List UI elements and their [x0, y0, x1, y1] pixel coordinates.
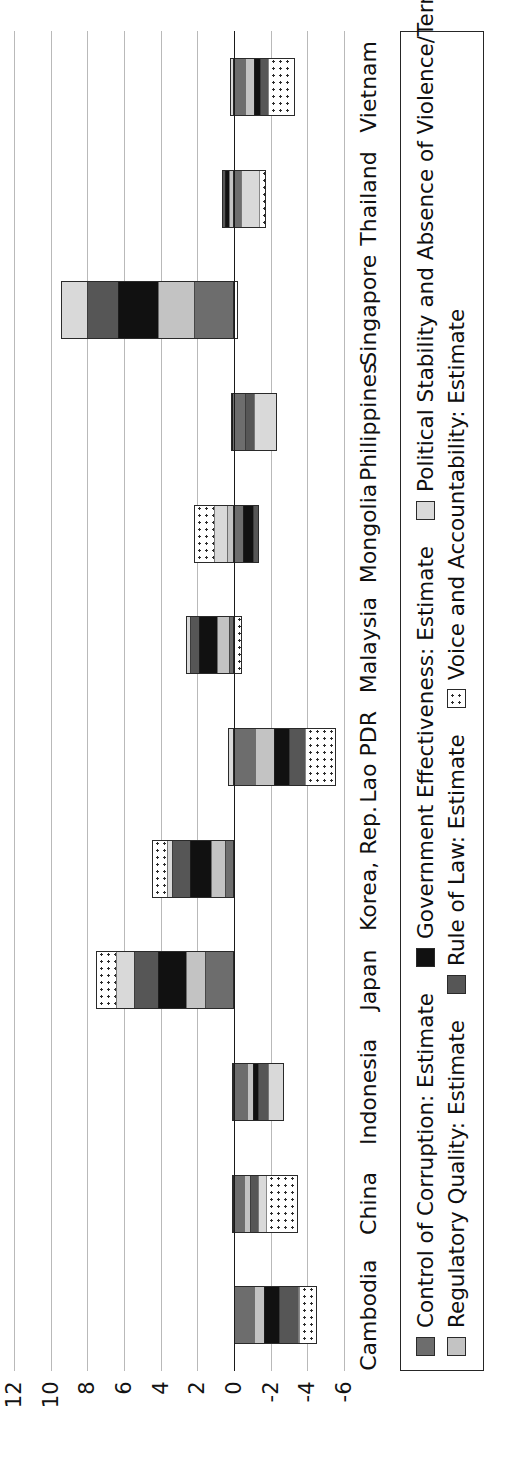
- stacked-bar[interactable]: [222, 170, 234, 228]
- bar-segment: [235, 729, 255, 785]
- bar-column: [14, 701, 344, 813]
- bar-segment: [214, 506, 227, 562]
- bar-segment: [134, 952, 158, 1008]
- bar-segment: [250, 1176, 258, 1232]
- chart-legend: Control of Corruption: EstimateGovernmen…: [400, 31, 484, 1371]
- bar-column: [14, 478, 344, 590]
- bar-segment: [229, 171, 233, 227]
- bar-segment: [289, 729, 305, 785]
- bar-segment: [97, 952, 116, 1008]
- bar-segment: [259, 171, 265, 227]
- stacked-bar[interactable]: [234, 393, 277, 451]
- bar-segment: [186, 952, 205, 1008]
- bar-segment: [116, 952, 134, 1008]
- value-axis-tick-label: 10: [39, 1381, 63, 1429]
- bar-segment: [235, 282, 237, 338]
- legend-swatch-icon: [447, 1337, 466, 1356]
- stacked-bar[interactable]: [61, 281, 234, 339]
- stacked-bar[interactable]: [234, 58, 295, 116]
- bar-segment: [153, 841, 166, 897]
- bar-segment: [260, 59, 268, 115]
- bar-segment: [266, 1176, 297, 1232]
- value-axis-tick-label: 12: [2, 1381, 26, 1429]
- bar-segment: [243, 506, 252, 562]
- category-label: Cambodia: [356, 1260, 381, 1371]
- legend-swatch-icon: [447, 689, 466, 708]
- category-label: Vietnam: [356, 41, 381, 133]
- legend-label: Government Effectiveness: Estimate: [410, 546, 441, 939]
- legend-swatch-icon: [416, 1337, 435, 1356]
- legend-swatch-icon: [416, 948, 435, 967]
- bar-column: [14, 589, 344, 701]
- bar-segment: [195, 506, 214, 562]
- stacked-bar[interactable]: [234, 616, 242, 674]
- bar-segment: [235, 394, 245, 450]
- legend-row-2: Regulatory Quality: EstimateRule of Law:…: [441, 46, 472, 1356]
- bar-segment: [235, 59, 245, 115]
- value-axis-tick-label: -4: [295, 1381, 319, 1429]
- category-label: China: [356, 1172, 381, 1235]
- legend-label: Control of Corruption: Estimate: [410, 993, 441, 1328]
- bar-segment: [235, 1064, 247, 1120]
- bar-segment: [229, 729, 233, 785]
- legend-item[interactable]: Voice and Accountability: Estimate: [441, 309, 472, 709]
- plot-area: 121086420-2-4-6: [14, 31, 344, 1371]
- category-label: Philippines: [356, 363, 381, 482]
- stacked-bar[interactable]: [234, 1175, 298, 1233]
- legend-item[interactable]: Regulatory Quality: Estimate: [441, 1020, 472, 1356]
- gridline: [344, 31, 345, 1371]
- bar-segment: [245, 59, 255, 115]
- bar-column: [14, 254, 344, 366]
- stacked-bar[interactable]: [234, 728, 336, 786]
- bar-segment: [254, 394, 276, 450]
- stacked-bar[interactable]: [194, 505, 234, 563]
- bar-column: [14, 924, 344, 1036]
- chart-canvas: 121086420-2-4-6 CambodiaChinaIndonesiaJa…: [0, 0, 520, 1467]
- bar-segment: [235, 506, 243, 562]
- bar-column: [14, 143, 344, 255]
- value-axis-tick-label: 8: [75, 1381, 99, 1429]
- bar-segment: [235, 617, 241, 673]
- bar-segment: [217, 617, 228, 673]
- bar-segment: [118, 282, 158, 338]
- stacked-bar[interactable]: [234, 505, 259, 563]
- legend-label: Political Stability and Absence of Viole…: [410, 0, 441, 492]
- bar-segment: [199, 617, 217, 673]
- bar-segment: [279, 1287, 298, 1343]
- legend-item[interactable]: Government Effectiveness: Estimate: [410, 546, 441, 967]
- stacked-bar[interactable]: [234, 1286, 317, 1344]
- bar-segment: [205, 952, 233, 1008]
- bar-segment: [253, 506, 258, 562]
- bar-segment: [299, 1287, 316, 1343]
- stacked-bar[interactable]: [186, 616, 234, 674]
- category-axis-labels: CambodiaChinaIndonesiaJapanKorea, Rep.La…: [356, 31, 386, 1371]
- bar-segment: [190, 841, 211, 897]
- bar-segment: [255, 729, 274, 785]
- bar-segment: [258, 1064, 269, 1120]
- bar-segment: [194, 282, 233, 338]
- bar-segment: [235, 1287, 254, 1343]
- bar-segment: [227, 506, 233, 562]
- bar-column: [14, 366, 344, 478]
- bar-segment: [268, 59, 294, 115]
- category-label: Mongolia: [356, 484, 381, 584]
- category-label: Indonesia: [356, 1039, 381, 1145]
- zero-axis-line: [234, 31, 235, 1371]
- bar-column: [14, 1036, 344, 1148]
- bar-segment: [235, 1176, 244, 1232]
- bar-segment: [172, 841, 190, 897]
- bar-segment: [62, 282, 87, 338]
- legend-row-1: Control of Corruption: EstimateGovernmen…: [410, 46, 441, 1356]
- bar-segment: [225, 841, 233, 897]
- legend-item[interactable]: Rule of Law: Estimate: [441, 734, 472, 994]
- bar-segment: [87, 282, 118, 338]
- legend-item[interactable]: Political Stability and Absence of Viole…: [410, 0, 441, 520]
- stacked-bar[interactable]: [234, 170, 266, 228]
- legend-label: Regulatory Quality: Estimate: [441, 1020, 472, 1328]
- stacked-bar[interactable]: [152, 840, 234, 898]
- stacked-bar[interactable]: [96, 951, 234, 1009]
- bar-segment: [211, 841, 225, 897]
- legend-item[interactable]: Control of Corruption: Estimate: [410, 993, 441, 1356]
- bar-segment: [241, 171, 259, 227]
- stacked-bar[interactable]: [234, 1063, 284, 1121]
